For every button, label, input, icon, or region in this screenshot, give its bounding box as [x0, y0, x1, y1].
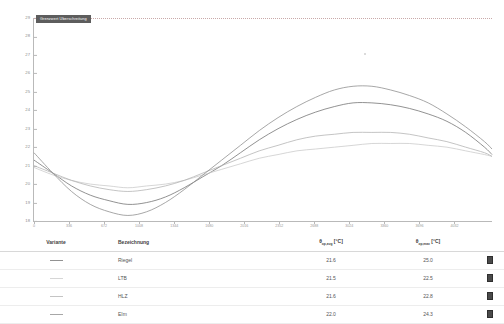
cell-theta-max: 22.5 — [380, 269, 476, 287]
cell-color-swatch[interactable] — [476, 287, 504, 305]
column-header-swatch — [476, 234, 504, 251]
cell-theta-max: 22.8 — [380, 287, 476, 305]
table-row[interactable]: EIm22.024.3 — [0, 305, 504, 323]
x-axis-tick-mark — [139, 221, 140, 224]
theta-avg-unit: [°C] — [332, 238, 342, 244]
y-axis-tick-label: 24 — [25, 108, 34, 112]
column-header-theta-max[interactable]: θop,max [°C] — [380, 234, 476, 251]
cell-theta-avg: 22.0 — [282, 305, 380, 323]
x-axis-tick-label: 3360 — [380, 221, 388, 229]
cell-bezeichnung: HLZ — [112, 287, 282, 305]
y-axis-tick-label: 23 — [25, 127, 34, 131]
y-axis-tick-label: 22 — [25, 145, 34, 149]
y-axis-tick-label: 29 — [25, 16, 34, 20]
x-axis-tick-label: 672 — [101, 221, 107, 229]
x-axis-tick-mark — [69, 221, 70, 224]
x-axis-tick-mark — [349, 221, 350, 224]
x-axis-tick-label: 2352 — [275, 221, 283, 229]
color-swatch-icon[interactable] — [487, 310, 493, 318]
y-axis-tick-label: 27 — [25, 53, 34, 57]
line-style-indicator — [50, 278, 63, 279]
cell-color-swatch[interactable] — [476, 269, 504, 287]
color-swatch-icon[interactable] — [487, 292, 493, 300]
x-axis-tick-mark — [314, 221, 315, 224]
y-axis-tick-label: 28 — [25, 34, 34, 38]
line-style-indicator — [50, 260, 63, 261]
chart-plot-area: 292827262524232221201918 033667210081344… — [33, 18, 492, 222]
column-header-variante[interactable]: Variante — [0, 234, 112, 251]
x-axis-tick-mark — [104, 221, 105, 224]
line-style-indicator — [50, 296, 63, 297]
series-lines — [34, 18, 492, 221]
cell-color-swatch[interactable] — [476, 305, 504, 323]
table-body: Riegel21.625.0LTB21.522.5HLZ21.622.8EIm2… — [0, 251, 504, 323]
table-header-row: Variante Bezeichnung θop,avg [°C] θop,ma… — [0, 234, 504, 251]
x-axis-tick-mark — [209, 221, 210, 224]
series-line-eim — [34, 86, 492, 216]
color-swatch-icon[interactable] — [487, 256, 493, 264]
x-axis-tick-label: 2016 — [240, 221, 248, 229]
x-axis-tick-label: 1680 — [205, 221, 213, 229]
cell-variante — [0, 269, 112, 287]
theta-avg-subscript: op,avg — [322, 242, 333, 246]
table-row[interactable]: Riegel21.625.0 — [0, 251, 504, 269]
x-axis-tick-mark — [454, 221, 455, 224]
cell-theta-avg: 21.5 — [282, 269, 380, 287]
column-header-bezeichnung[interactable]: Bezeichnung — [112, 234, 282, 251]
x-axis-tick-mark — [34, 221, 35, 224]
x-axis-tick-label: 1008 — [135, 221, 143, 229]
x-axis-tick-label: 336 — [66, 221, 72, 229]
cell-variante — [0, 305, 112, 323]
cell-theta-avg: 21.6 — [282, 287, 380, 305]
cell-theta-avg: 21.6 — [282, 251, 380, 269]
color-swatch-icon[interactable] — [487, 274, 493, 282]
cell-variante — [0, 287, 112, 305]
x-axis-tick-label: 2688 — [310, 221, 318, 229]
y-axis-tick-label: 20 — [25, 182, 34, 186]
theta-max-subscript: op,max — [418, 242, 430, 246]
table-row[interactable]: LTB21.522.5 — [0, 269, 504, 287]
x-axis-tick-mark — [174, 221, 175, 224]
x-axis-tick-label: 4032 — [450, 221, 458, 229]
temperature-chart: 292827262524232221201918 033667210081344… — [0, 0, 504, 232]
column-header-theta-avg[interactable]: θop,avg [°C] — [282, 234, 380, 251]
cell-bezeichnung: LTB — [112, 269, 282, 287]
line-style-indicator — [50, 314, 63, 315]
y-axis-tick-label: 21 — [25, 164, 34, 168]
table-row[interactable]: HLZ21.622.8 — [0, 287, 504, 305]
theta-max-unit: [°C] — [430, 238, 440, 244]
cell-theta-max: 25.0 — [380, 251, 476, 269]
data-point-marker — [364, 53, 366, 55]
x-axis-tick-label: 0 — [33, 221, 35, 229]
cell-color-swatch[interactable] — [476, 251, 504, 269]
x-axis-tick-mark — [419, 221, 420, 224]
x-axis-tick-label: 3696 — [415, 221, 423, 229]
table-header: Variante Bezeichnung θop,avg [°C] θop,ma… — [0, 234, 504, 251]
y-axis-tick-label: 25 — [25, 90, 34, 94]
series-line-riegel — [34, 103, 492, 205]
x-axis-tick-label: 1344 — [170, 221, 178, 229]
x-axis-tick-mark — [384, 221, 385, 224]
x-axis-tick-mark — [244, 221, 245, 224]
cell-theta-max: 24.3 — [380, 305, 476, 323]
x-axis-tick-mark — [279, 221, 280, 224]
series-line-hlz — [34, 132, 492, 191]
variants-table-element: Variante Bezeichnung θop,avg [°C] θop,ma… — [0, 234, 504, 324]
y-axis-tick-label: 19 — [25, 200, 34, 204]
x-axis-tick-label: 3024 — [345, 221, 353, 229]
cell-bezeichnung: Riegel — [112, 251, 282, 269]
y-axis-tick-label: 26 — [25, 71, 34, 75]
cell-variante — [0, 251, 112, 269]
cell-bezeichnung: EIm — [112, 305, 282, 323]
variants-table: Variante Bezeichnung θop,avg [°C] θop,ma… — [0, 234, 504, 307]
